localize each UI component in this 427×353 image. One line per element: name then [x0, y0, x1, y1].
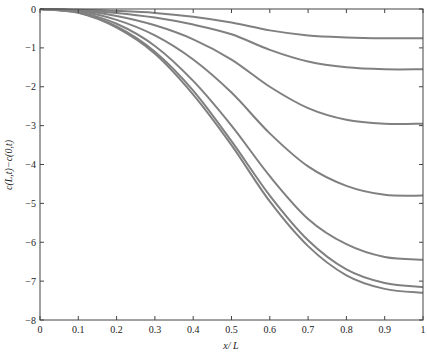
y-tick-label: −4 — [25, 159, 36, 170]
x-axis-label: x/ L — [222, 340, 239, 351]
y-tick-label: −1 — [25, 42, 36, 53]
x-tick-label: 0.3 — [149, 324, 162, 335]
y-tick-label: −3 — [25, 120, 36, 131]
plot-frame — [40, 9, 423, 320]
x-axis-ticks: 00.10.20.30.40.50.60.70.80.91 — [38, 9, 426, 335]
x-tick-label: 1 — [421, 324, 426, 335]
x-tick-label: 0.4 — [187, 324, 200, 335]
y-tick-label: −2 — [25, 81, 36, 92]
series-lines — [40, 9, 423, 293]
x-tick-label: 0.8 — [340, 324, 353, 335]
line-chart: 00.10.20.30.40.50.60.70.80.91 0−1−2−3−4−… — [0, 0, 427, 353]
series-line-6 — [40, 9, 423, 287]
x-tick-label: 0.1 — [72, 324, 85, 335]
series-line-5 — [40, 9, 423, 260]
y-tick-label: −6 — [25, 237, 36, 248]
x-tick-label: 0.9 — [378, 324, 391, 335]
x-tick-label: 0 — [38, 324, 43, 335]
y-tick-label: −7 — [25, 276, 36, 287]
y-tick-label: −5 — [25, 198, 36, 209]
y-tick-label: −8 — [25, 315, 36, 326]
x-tick-label: 0.2 — [110, 324, 123, 335]
x-tick-label: 0.7 — [302, 324, 315, 335]
series-line-7 — [40, 9, 423, 293]
x-tick-label: 0.6 — [264, 324, 277, 335]
y-axis-label: c(L,t)−c(0,t) — [3, 139, 15, 190]
series-line-3 — [40, 9, 423, 124]
x-tick-label: 0.5 — [225, 324, 238, 335]
y-tick-label: 0 — [31, 4, 36, 15]
